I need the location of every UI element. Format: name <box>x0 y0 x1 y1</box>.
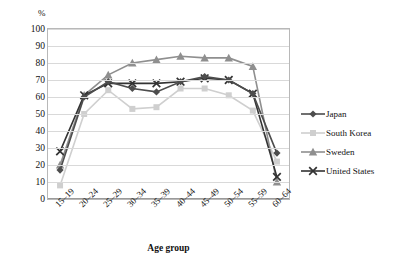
y-axis-tick-label: 70 <box>3 75 45 85</box>
x-axis-title: Age group <box>47 243 290 253</box>
y-axis-tick-label: 10 <box>3 177 45 187</box>
legend-label: Sweden <box>326 147 355 157</box>
data-point-square <box>178 86 184 92</box>
line-chart: % 0102030405060708090100 15–1920–2425–29… <box>0 0 409 268</box>
legend-label: South Korea <box>326 128 371 138</box>
legend-symbol-triangle-icon <box>300 145 326 159</box>
gridline <box>48 63 289 64</box>
legend-symbol-x-icon <box>300 164 326 178</box>
data-point-square <box>105 87 111 93</box>
legend-symbol-diamond-icon <box>300 107 326 121</box>
y-axis-tick-label: 80 <box>3 58 45 68</box>
y-axis-tick-label: 100 <box>3 24 45 34</box>
y-axis-tick-label: 20 <box>3 160 45 170</box>
data-point-square <box>129 106 135 112</box>
y-axis-tick-label: 30 <box>3 143 45 153</box>
data-point-square <box>153 104 159 110</box>
y-axis-tick-labels: 0102030405060708090100 <box>0 28 45 200</box>
legend-label: United States <box>326 166 374 176</box>
gridline <box>48 97 289 98</box>
chart-legend: JapanSouth KoreaSwedenUnited States <box>300 104 406 180</box>
gridline <box>48 131 289 132</box>
legend-item-south-korea[interactable]: South Korea <box>300 123 406 142</box>
data-point-square <box>250 108 256 114</box>
y-axis-tick-label: 60 <box>3 92 45 102</box>
data-point-triangle <box>104 71 112 79</box>
data-point-square <box>202 86 208 92</box>
plot-area <box>47 28 290 200</box>
gridline <box>48 29 289 30</box>
gridline <box>48 46 289 47</box>
series-south-korea <box>57 86 280 189</box>
legend-symbol-square-icon <box>300 126 326 140</box>
y-axis-tick-label: 0 <box>3 194 45 204</box>
y-axis-unit-label: % <box>38 8 46 18</box>
gridline <box>48 182 289 183</box>
y-axis-tick-label: 50 <box>3 109 45 119</box>
gridline <box>48 114 289 115</box>
gridline <box>48 80 289 81</box>
data-point-square <box>57 182 63 188</box>
legend-item-sweden[interactable]: Sweden <box>300 142 406 161</box>
data-point-diamond <box>309 110 316 117</box>
data-point-square <box>274 159 280 165</box>
legend-item-united-states[interactable]: United States <box>300 161 406 180</box>
data-point-square <box>310 130 316 136</box>
legend-label: Japan <box>326 109 347 119</box>
gridline <box>48 165 289 166</box>
y-axis-tick-label: 40 <box>3 126 45 136</box>
x-axis-tick-labels: 15–1920–2425–2930–3435–3940–4445–4950–54… <box>47 202 290 248</box>
legend-item-japan[interactable]: Japan <box>300 104 406 123</box>
series-japan <box>56 73 280 174</box>
y-axis-tick-label: 90 <box>3 41 45 51</box>
gridline <box>48 148 289 149</box>
data-point-diamond <box>153 88 160 95</box>
